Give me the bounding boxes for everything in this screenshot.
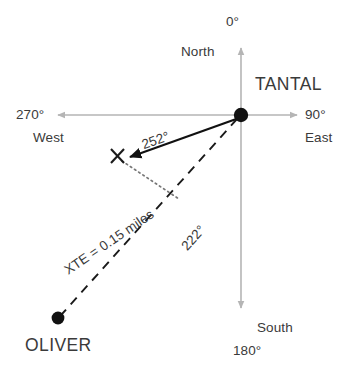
diagram-canvas	[0, 0, 349, 383]
label-south-degrees: 180°	[233, 344, 261, 358]
waypoint-label-tantal: TANTAL	[255, 76, 322, 94]
label-south-cardinal: South	[257, 321, 293, 335]
label-north-degrees: 0°	[226, 15, 239, 29]
waypoint-marker-oliver	[52, 312, 65, 325]
waypoint-marker-tantal	[234, 108, 248, 122]
label-east-cardinal: East	[305, 131, 332, 145]
waypoint-label-oliver: OLIVER	[25, 337, 92, 355]
position-marker-x	[111, 149, 124, 163]
navigation-diagram: 0° North 90° East 270° West South 180° T…	[0, 0, 349, 383]
label-east-degrees: 90°	[305, 108, 326, 122]
label-west-cardinal: West	[33, 131, 64, 145]
label-west-degrees: 270°	[16, 108, 44, 122]
label-north-cardinal: North	[181, 45, 215, 59]
